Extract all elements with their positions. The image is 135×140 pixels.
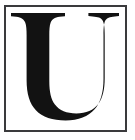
mark-border-frame: U [4,5,127,132]
image-canvas: U [0,0,135,140]
mark-plate: U [6,7,125,130]
letter-u-glyph: U [6,7,125,130]
letter-u-outline [11,13,119,120]
letter-u-mark: U [6,7,125,130]
